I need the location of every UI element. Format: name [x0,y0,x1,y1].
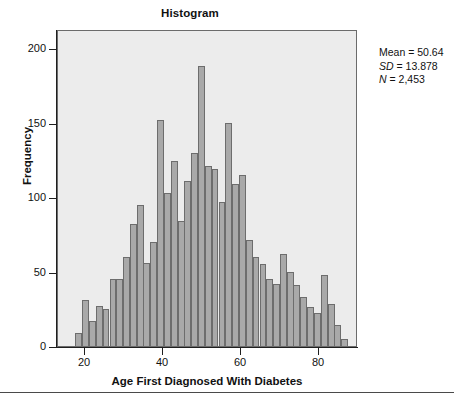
histogram-bar [171,161,178,346]
x-tick-label: 20 [64,356,104,368]
chart-title: Histogram [0,7,380,19]
y-axis-title: Frequency [21,96,33,216]
histogram-bar [334,325,341,346]
y-tick-label: 50 [2,266,46,278]
plot-area [57,30,357,347]
histogram-bar [75,333,82,346]
histogram-bar [225,123,232,346]
histogram-bar [198,66,205,346]
y-tick-mark [49,347,56,348]
x-tick-mark [162,348,163,355]
y-tick-label: 200 [2,42,46,54]
histogram-bar [293,285,300,346]
x-axis-line [57,347,358,348]
stat-n: N = 2,453 [379,73,444,86]
histogram-figure: Histogram 050100150200 Frequency 2040608… [0,0,454,408]
histogram-bar [253,257,260,346]
x-tick-mark [84,348,85,355]
x-tick-mark [318,348,319,355]
x-tick-label: 80 [298,356,338,368]
footer-divider [0,392,454,393]
n-value: = 2,453 [387,73,425,85]
y-tick-mark [49,49,56,50]
bars-container [58,31,356,346]
histogram-bar [212,169,219,346]
histogram-bar [157,120,164,346]
histogram-bar [116,279,123,346]
sd-value: = 13.878 [394,60,438,72]
x-tick-label: 60 [220,356,260,368]
y-axis-line [56,30,57,348]
histogram-bar [184,181,191,346]
y-tick-label: 0 [2,340,46,352]
y-tick-mark [49,273,56,274]
histogram-bar [321,275,328,346]
x-tick-mark [240,348,241,355]
stat-sd: SD = 13.878 [379,60,444,73]
x-tick-label: 40 [142,356,182,368]
statistics-annotation: Mean = 50.64 SD = 13.878 N = 2,453 [379,46,444,87]
n-symbol: N [379,73,387,85]
histogram-bar [266,279,273,346]
histogram-bar [103,309,110,346]
histogram-bar [239,175,246,346]
y-tick-mark [49,124,56,125]
histogram-bar [143,263,150,346]
y-tick-mark [49,198,56,199]
histogram-bar [89,321,96,346]
x-axis-title: Age First Diagnosed With Diabetes [57,375,357,387]
footer-caption [22,398,442,407]
histogram-bar [307,307,314,346]
histogram-bar [341,339,348,346]
histogram-bar [130,224,137,346]
stat-mean: Mean = 50.64 [379,46,444,59]
sd-symbol: SD [379,60,394,72]
histogram-bar [280,254,287,346]
